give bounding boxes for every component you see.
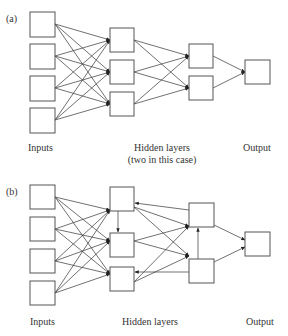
hidden-node <box>110 233 134 257</box>
hidden-node <box>110 92 134 116</box>
hidden-node <box>110 267 134 291</box>
input-layer-b <box>30 185 55 305</box>
edges-input-to-hidden1 <box>55 24 110 120</box>
hidden-node <box>110 60 134 84</box>
input-node <box>30 217 55 241</box>
panel-b-tag: (b) <box>6 186 18 198</box>
input-node <box>30 44 55 69</box>
input-node <box>30 76 55 101</box>
hidden-node <box>189 44 213 68</box>
hidden-node <box>110 187 134 211</box>
hidden-node <box>189 259 214 283</box>
hidden-node <box>110 28 134 52</box>
hidden-layer-1-a <box>110 28 134 116</box>
input-node <box>30 12 55 37</box>
input-layer-a <box>30 12 55 133</box>
panel-b: (b) <box>6 185 274 327</box>
edges-hidden1-to-hidden2 <box>134 40 189 104</box>
output-label-b: Output <box>246 316 274 327</box>
output-node <box>245 232 270 256</box>
hidden-layer-2-a <box>189 44 213 100</box>
panel-a: (a) <box>6 12 271 166</box>
output-label-a: Output <box>243 142 271 153</box>
output-layer-a <box>245 60 270 84</box>
hidden-node <box>189 76 213 100</box>
edges-hidden2-to-output <box>213 56 245 88</box>
inputs-label-a: Inputs <box>28 142 53 153</box>
output-layer-b <box>245 232 270 256</box>
panel-a-tag: (a) <box>6 13 17 25</box>
hidden-layer-1-b <box>110 187 134 291</box>
edges-hidden1-to-hidden2 <box>134 207 189 282</box>
edges-hidden2-to-output <box>214 225 245 262</box>
input-node <box>30 185 55 209</box>
edges-input-to-hidden1 <box>55 197 110 293</box>
feedback-edge-h2-top-to-h1-top <box>135 203 189 210</box>
hidden-node <box>189 203 214 227</box>
hidden-label-a: Hidden layers <box>134 142 190 153</box>
hidden-note-a: (two in this case) <box>128 154 197 166</box>
hidden-label-b: Hidden layers <box>122 316 178 327</box>
input-node <box>30 108 55 133</box>
inputs-label-b: Inputs <box>30 316 55 327</box>
hidden-layer-2-b <box>189 203 214 283</box>
input-node <box>30 281 55 305</box>
output-node <box>245 60 270 84</box>
input-node <box>30 249 55 273</box>
neural-network-diagram: (a) <box>0 0 288 336</box>
